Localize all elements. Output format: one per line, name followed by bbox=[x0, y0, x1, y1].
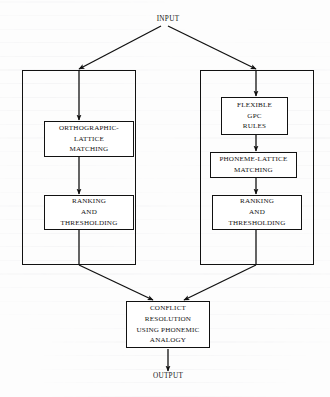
node-line: PHONEME-LATTICE bbox=[219, 154, 287, 165]
node-line: RULES bbox=[243, 121, 266, 132]
node-left-ranking-thresholding: RANKING AND THRESHOLDING bbox=[44, 195, 134, 230]
node-line: AND bbox=[81, 207, 97, 218]
node-line: USING PHONEMIC bbox=[136, 325, 199, 336]
node-conflict-resolution: CONFLICT RESOLUTION USING PHONEMIC ANALO… bbox=[126, 301, 210, 348]
node-line: GPC bbox=[247, 111, 261, 122]
input-label: INPUT bbox=[140, 15, 196, 23]
output-label: OUTPUT bbox=[140, 372, 196, 380]
edge-right-merge bbox=[184, 265, 256, 300]
node-line: RESOLUTION bbox=[145, 314, 191, 325]
node-line: MATCHING bbox=[70, 144, 109, 155]
node-line: AND bbox=[249, 207, 265, 218]
node-line: RANKING bbox=[72, 196, 106, 207]
node-line: RANKING bbox=[240, 196, 274, 207]
edge-input-to-right bbox=[168, 26, 256, 69]
node-flexible-gpc-rules: FLEXIBLE GPC RULES bbox=[221, 97, 288, 135]
node-line: MATCHING bbox=[234, 165, 273, 176]
node-line: LATTICE bbox=[74, 134, 104, 145]
edge-input-to-left bbox=[79, 26, 161, 69]
node-line: ORTHOGRAPHIC- bbox=[59, 123, 119, 134]
node-phoneme-lattice-matching: PHONEME-LATTICE MATCHING bbox=[210, 152, 297, 178]
flowchart-canvas: INPUT OUTPUT ORTHOGRAPHIC- LATTICE MATCH… bbox=[0, 0, 330, 397]
node-right-ranking-thresholding: RANKING AND THRESHOLDING bbox=[212, 195, 302, 230]
node-line: CONFLICT bbox=[150, 303, 186, 314]
edge-left-merge bbox=[79, 265, 153, 300]
node-line: ANALOGY bbox=[150, 335, 186, 346]
node-orthographic-lattice-matching: ORTHOGRAPHIC- LATTICE MATCHING bbox=[44, 121, 134, 157]
orthographic-route-panel bbox=[22, 70, 136, 265]
node-line: THRESHOLDING bbox=[229, 218, 286, 229]
node-line: THRESHOLDING bbox=[61, 218, 118, 229]
node-line: FLEXIBLE bbox=[237, 100, 272, 111]
